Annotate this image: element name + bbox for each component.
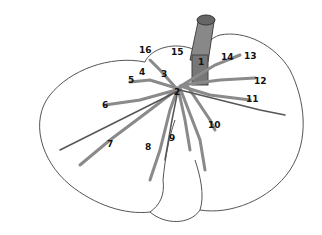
label-5: 5 xyxy=(128,76,134,85)
label-4: 4 xyxy=(139,68,145,77)
aorta-vessel xyxy=(190,15,215,85)
label-11: 11 xyxy=(246,95,259,104)
lung-illustration xyxy=(0,0,322,235)
label-10: 10 xyxy=(208,121,221,130)
bronchial-branches xyxy=(80,55,255,180)
label-6: 6 xyxy=(102,101,108,110)
label-9: 9 xyxy=(169,134,175,143)
label-12: 12 xyxy=(254,77,267,86)
label-16: 16 xyxy=(139,46,152,55)
label-1: 1 xyxy=(198,58,204,67)
label-2: 2 xyxy=(174,88,180,97)
label-14: 14 xyxy=(221,53,234,62)
label-8: 8 xyxy=(145,143,151,152)
label-13: 13 xyxy=(244,52,257,61)
lung-diagram: 1 2 3 4 5 6 7 8 9 10 11 12 13 14 15 16 xyxy=(0,0,322,235)
middle-lobe-outline xyxy=(150,160,202,222)
left-lobe-outline xyxy=(40,60,164,212)
label-15: 15 xyxy=(171,48,184,57)
label-3: 3 xyxy=(161,70,167,79)
label-7: 7 xyxy=(107,140,113,149)
